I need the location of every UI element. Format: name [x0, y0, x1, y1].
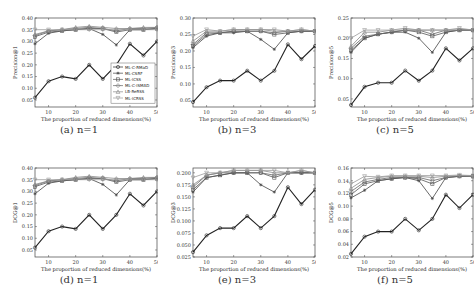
- star-marker: [417, 37, 420, 40]
- x-tick-label: 30: [100, 259, 106, 265]
- y-tick-label: 0.150: [177, 194, 191, 200]
- y-tick-label: 0.05: [22, 97, 33, 103]
- x-tick-label: 10: [361, 109, 367, 115]
- y-tick-label: 0.050: [177, 242, 191, 248]
- y-tick-label: 0.40: [22, 165, 33, 171]
- y-tick-label: 0.06: [338, 228, 349, 234]
- x-axis-label: The proportion of reduced dimensions(%): [357, 116, 467, 123]
- legend-entry: ML-C-ISMAD: [125, 83, 149, 88]
- y-axis-label: Precision@3: [170, 46, 176, 79]
- y-tick-label: 0.20: [22, 212, 33, 218]
- y-tick-label: 0.15: [22, 73, 33, 79]
- x-tick-label: 20: [388, 259, 394, 265]
- y-tick-label: 0.15: [180, 64, 191, 70]
- x-tick-label: 40: [127, 259, 133, 265]
- x-tick-label: 10: [203, 109, 209, 115]
- y-tick-label: 0.25: [22, 200, 33, 206]
- y-tick-label: 0.14: [338, 178, 349, 184]
- x-tick-label: 40: [443, 259, 449, 265]
- y-tick-label: 0.30: [22, 188, 33, 194]
- y-tick-label: 0.075: [177, 230, 191, 236]
- x-axis-label: The proportion of reduced dimensions(%): [357, 266, 467, 273]
- caption-b: (b) n=3: [158, 124, 316, 135]
- star-marker: [259, 38, 262, 41]
- legend-entry: ML-CSRF: [125, 71, 143, 76]
- y-tick-label: 0.15: [22, 223, 33, 229]
- y-tick-label: 0.35: [22, 27, 33, 33]
- x-tick-label: 10: [45, 109, 51, 115]
- y-tick-label: 0.10: [180, 81, 191, 87]
- legend-entry: ML-ICSS: [125, 77, 142, 82]
- y-tick-label: 0.25: [22, 50, 33, 56]
- legend-entry: ML-ICRSS: [125, 96, 144, 101]
- y-tick-label: 0.12: [338, 190, 349, 196]
- x-axis-label: The proportion of reduced dimensions(%): [199, 116, 309, 123]
- x-tick-label: 40: [285, 259, 291, 265]
- y-tick-label: 0.05: [338, 96, 349, 102]
- caption-f: (f) n=5: [316, 274, 474, 285]
- x-tick-label: 20: [72, 109, 78, 115]
- y-tick-label: 0.02: [338, 254, 349, 260]
- legend: ML-C-RMaDML-CSRFML-ICSSML-C-ISMADLB-ReRS…: [111, 63, 155, 103]
- x-tick-label: 20: [388, 109, 394, 115]
- y-tick-label: 0.16: [338, 165, 349, 171]
- x-tick-label: 50: [470, 109, 474, 115]
- x-tick-label: 30: [258, 109, 264, 115]
- y-tick-label: 0.05: [180, 97, 191, 103]
- star-marker: [259, 183, 262, 186]
- caption-d: (d) n=1: [0, 274, 158, 285]
- x-tick-label: 20: [230, 259, 236, 265]
- y-tick-label: 0.04: [338, 241, 349, 247]
- caption-e: (e) n=3: [158, 274, 316, 285]
- y-tick-label: 0.10: [338, 75, 349, 81]
- legend-entry: ML-C-RMaD: [125, 65, 148, 70]
- x-tick-label: 10: [361, 259, 367, 265]
- y-tick-label: 0.10: [22, 235, 33, 241]
- y-tick-label: 0.200: [177, 170, 191, 176]
- x-tick-label: 20: [230, 109, 236, 115]
- y-tick-label: 0.25: [180, 31, 191, 37]
- x-tick-label: 30: [416, 109, 422, 115]
- x-tick-label: 30: [100, 109, 106, 115]
- y-axis-label: Precision@1: [12, 46, 18, 79]
- y-tick-label: 0.08: [338, 216, 349, 222]
- star-marker: [115, 43, 118, 46]
- y-tick-label: 0.40: [22, 15, 33, 21]
- y-axis-label: DCG@3: [170, 202, 176, 223]
- star-marker: [363, 189, 366, 192]
- y-tick-label: 0.20: [22, 62, 33, 68]
- star-marker: [116, 72, 119, 75]
- plot-area: [193, 168, 315, 257]
- y-tick-label: 0.125: [177, 206, 191, 212]
- y-tick-label: 0.30: [180, 15, 191, 21]
- x-tick-label: 10: [45, 259, 51, 265]
- y-axis-label: DCG@5: [328, 202, 334, 223]
- x-tick-label: 40: [127, 109, 133, 115]
- legend-entry: LB-ReRSS: [125, 89, 145, 94]
- y-tick-label: 0.25: [338, 15, 349, 21]
- y-tick-label: 0.05: [22, 247, 33, 253]
- y-tick-label: 0.30: [22, 38, 33, 44]
- y-tick-label: 0.100: [177, 218, 191, 224]
- y-tick-label: 0.025: [177, 254, 191, 260]
- x-tick-label: 40: [443, 109, 449, 115]
- y-axis-label: Precision@5: [328, 46, 334, 79]
- star-marker: [33, 42, 36, 45]
- x-axis-label: The proportion of reduced dimensions(%): [41, 116, 151, 123]
- x-tick-label: 30: [258, 259, 264, 265]
- y-axis-label: DCG@1: [12, 202, 18, 223]
- x-tick-label: 30: [416, 259, 422, 265]
- y-tick-label: 0.10: [22, 85, 33, 91]
- y-tick-label: 0.20: [338, 35, 349, 41]
- x-tick-label: 40: [285, 109, 291, 115]
- x-axis-label: The proportion of reduced dimensions(%): [41, 266, 151, 273]
- x-tick-label: 50: [470, 259, 474, 265]
- x-axis-label: The proportion of reduced dimensions(%): [199, 266, 309, 273]
- star-marker: [349, 51, 352, 54]
- y-tick-label: 0.20: [180, 48, 191, 54]
- y-tick-label: 0.10: [338, 203, 349, 209]
- caption-c: (c) n=5: [316, 124, 474, 135]
- y-tick-label: 0.175: [177, 182, 191, 188]
- y-tick-label: 0.15: [338, 55, 349, 61]
- caption-a: (a) n=1: [0, 124, 158, 135]
